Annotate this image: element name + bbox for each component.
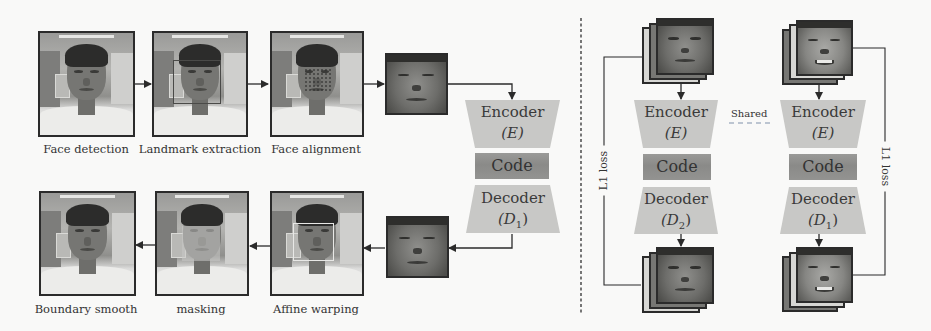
encoder-block-a: Encoder (E): [634, 103, 718, 148]
photo-landmark-extraction: [152, 31, 248, 137]
caption-masking: masking: [176, 302, 225, 316]
mask-region: [182, 226, 220, 260]
shared-label: Shared: [731, 108, 767, 119]
photo-affine-warping: [270, 191, 364, 296]
detection-box: [173, 60, 221, 105]
photo-face-alignment: [270, 31, 364, 137]
caption-face-detection: Face detection: [43, 142, 129, 156]
encoder-block-b: Encoder (E): [780, 103, 866, 148]
output-face-stack-a: [656, 247, 714, 304]
landmark-points: [304, 64, 331, 93]
aligned-face-crop: [385, 53, 448, 115]
decoder-block-d2: Decoder (D2): [634, 190, 718, 235]
encoder-block: Encoder (E): [465, 103, 560, 148]
l1-loss-label-left: L1 loss: [597, 146, 610, 196]
caption-landmark-extraction: Landmark extraction: [139, 142, 261, 156]
decoder-block-d1: Decoder (D1): [780, 190, 866, 235]
caption-affine-warping: Affine warping: [273, 302, 359, 316]
caption-face-alignment: Face alignment: [271, 142, 361, 156]
arrow-decoder-to-crop: [449, 234, 512, 248]
photo-face-detection: [38, 31, 135, 137]
code-block-a: Code: [643, 154, 711, 180]
l1-loss-label-right: L1 loss: [879, 142, 892, 192]
decoder-block: Decoder (D1): [466, 189, 560, 234]
generated-face-crop: [386, 216, 449, 278]
input-face-stack-b: [796, 20, 853, 76]
photo-masking: [155, 191, 249, 296]
warp-box: [293, 223, 334, 260]
code-block-b: Code: [789, 154, 857, 180]
photo-boundary-smooth: [39, 191, 136, 296]
arrow-crop-to-encoder: [447, 84, 512, 99]
output-face-stack-b: [796, 247, 853, 303]
code-block: Code: [475, 153, 549, 179]
input-face-stack-a: [656, 18, 714, 75]
caption-boundary-smooth: Boundary smooth: [35, 302, 138, 316]
l1-loss-loop-left: [604, 57, 645, 285]
